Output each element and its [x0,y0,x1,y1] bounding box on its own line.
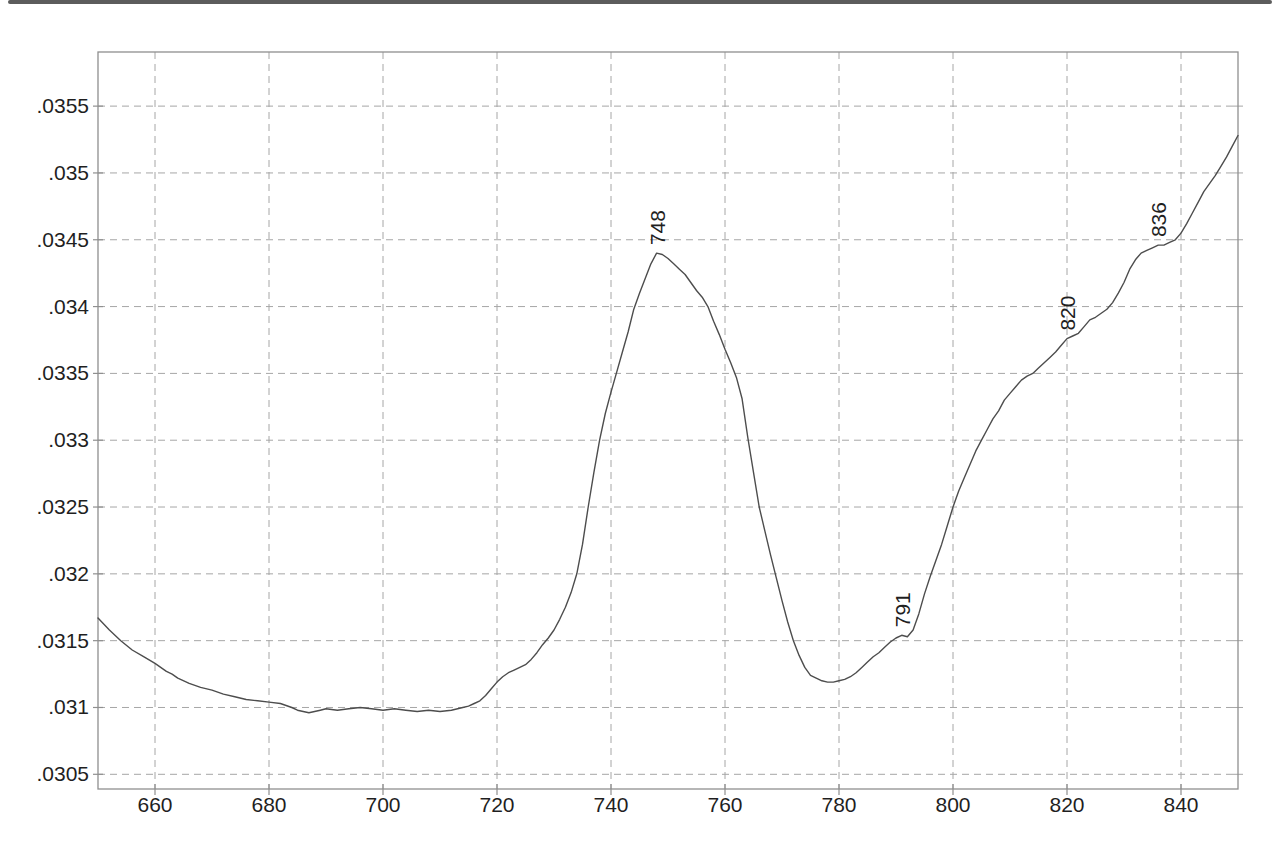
y-tick-label: .0325 [36,495,89,518]
x-tick-label: 780 [821,793,856,816]
x-tick-label: 760 [707,793,742,816]
y-tick-label: .032 [48,562,89,585]
y-tick-label: .0335 [36,361,89,384]
y-tick-label: .0305 [36,762,89,785]
peak-annotation: 836 [1147,202,1170,237]
y-tick-label: .035 [48,161,89,184]
x-tick-label: 840 [1163,793,1198,816]
scanned-spectrum-page: .0355.035.0345.034.0335.033.0325.032.031… [0,0,1281,857]
peak-annotation: 791 [891,592,914,627]
y-tick-label: .0355 [36,94,89,117]
x-tick-label: 700 [365,793,400,816]
y-tick-label: .0345 [36,228,89,251]
x-tick-label: 820 [1049,793,1084,816]
x-tick-label: 740 [593,793,628,816]
spectrum-chart: .0355.035.0345.034.0335.033.0325.032.031… [0,0,1281,857]
scan-artifact-top-edge [8,0,1272,4]
x-tick-label: 800 [935,793,970,816]
y-tick-label: .0315 [36,629,89,652]
peak-annotation: 748 [646,210,669,245]
x-tick-label: 680 [251,793,286,816]
x-tick-label: 720 [479,793,514,816]
y-tick-label: .033 [48,428,89,451]
peak-annotation: 820 [1056,296,1079,331]
y-tick-label: .034 [48,295,89,318]
y-tick-label: .031 [48,695,89,718]
x-tick-label: 660 [137,793,172,816]
